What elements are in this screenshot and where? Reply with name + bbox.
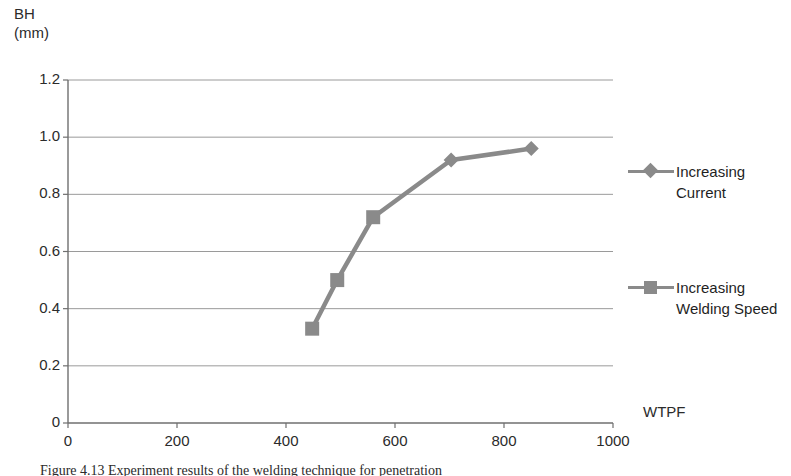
legend-item-increasing-welding-speed[interactable]: Increasing Welding Speed [628, 277, 786, 319]
y-tick-label: 0.4 [18, 299, 60, 316]
x-tick-label: 400 [256, 432, 316, 449]
x-tick-label: 200 [147, 432, 207, 449]
chart-figure: BH (mm) WTPF 00.20.40.60.81.01.2 0200400… [0, 0, 791, 476]
x-tick-label: 600 [365, 432, 425, 449]
legend-item-increasing-current[interactable]: Increasing Current [628, 161, 786, 203]
legend-diamond-marker-icon [628, 161, 674, 181]
figure-caption: Figure 4.13 Experiment results of the we… [40, 462, 760, 476]
y-tick-marks [63, 80, 68, 423]
x-tick-label: 0 [38, 432, 98, 449]
x-tick-marks [68, 423, 613, 428]
y-tick-label: 0.6 [18, 242, 60, 259]
y-tick-label: 0.2 [18, 356, 60, 373]
x-tick-label: 1000 [583, 432, 643, 449]
series-line-path [312, 149, 531, 329]
gridlines [68, 80, 613, 366]
legend-square-marker-icon [628, 277, 674, 297]
plot-canvas [0, 0, 791, 476]
y-tick-label: 0 [18, 413, 60, 430]
y-tick-label: 1.0 [18, 127, 60, 144]
x-tick-label: 800 [474, 432, 534, 449]
legend-label-increasing-current: Increasing Current [676, 161, 786, 203]
y-tick-label: 1.2 [18, 70, 60, 87]
y-tick-label: 0.8 [18, 184, 60, 201]
series-markers [305, 141, 539, 336]
legend-label-increasing-welding-speed: Increasing Welding Speed [676, 277, 786, 319]
